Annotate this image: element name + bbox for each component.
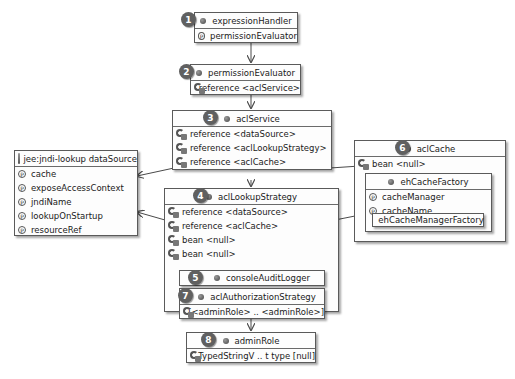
row-label: cacheManager	[382, 192, 444, 202]
property-row[interactable]: PpermissionEvaluator	[195, 29, 297, 43]
node-header: ehCacheManagerFactory	[373, 214, 483, 226]
bean-icon	[214, 275, 220, 281]
node-title: ehCacheFactory	[400, 177, 468, 187]
node-title: ehCacheManagerFactory	[378, 215, 483, 225]
row-label: [<adminRole> .. <adminRole>]	[188, 307, 324, 317]
node-header: ehCacheFactory	[366, 174, 491, 190]
node-title: jee:jndi-lookup dataSource	[23, 154, 137, 164]
property-icon: P	[198, 32, 205, 40]
list-row[interactable]: [<adminRole> .. <adminRole>]	[180, 305, 324, 319]
badge-3: 3	[203, 110, 218, 125]
property-icon: P	[18, 184, 26, 192]
bean-icon	[196, 70, 202, 76]
row-label: lookupOnStartup	[31, 211, 103, 221]
node-title: aclAuthorizationStrategy	[210, 292, 316, 302]
node-header: jee:jndi-lookup dataSource	[15, 151, 137, 167]
bean-row[interactable]: bean <null>	[165, 233, 338, 247]
property-row[interactable]: PjndiName	[15, 195, 137, 209]
reference-icon	[176, 157, 187, 168]
row-label: bean <null>	[182, 249, 236, 259]
badge-2: 2	[179, 64, 194, 79]
node-title: consoleAuditLogger	[226, 273, 310, 283]
property-row[interactable]: Pcache	[15, 167, 137, 181]
reference-row[interactable]: reference <dataSource>	[173, 127, 331, 141]
row-label: reference <aclService>	[199, 83, 300, 93]
property-icon: P	[369, 193, 377, 201]
property-row[interactable]: PexposeAccessContext	[15, 181, 137, 195]
node-title: permissionEvaluator	[208, 68, 295, 78]
reference-row[interactable]: reference <aclCache>	[165, 219, 338, 233]
node-header: aclLookupStrategy	[165, 189, 338, 205]
row-label: cache	[31, 169, 56, 179]
reference-icon	[168, 221, 179, 232]
reference-icon	[176, 129, 187, 140]
jndi-lookup-icon	[18, 153, 20, 164]
node-aclService[interactable]: 3 aclService reference <dataSource> refe…	[172, 110, 332, 170]
badge-4: 4	[193, 188, 208, 203]
row-label: reference <dataSource>	[190, 129, 296, 139]
row-label: permissionEvaluator	[210, 31, 297, 41]
bean-icon	[198, 294, 204, 300]
property-row[interactable]: PcacheManager	[366, 190, 491, 204]
row-label: exposeAccessContext	[31, 183, 124, 193]
node-title: adminRole	[235, 336, 280, 346]
badge-6: 6	[395, 140, 410, 155]
node-header: aclService	[173, 111, 331, 127]
node-header: permissionEvaluator	[191, 65, 300, 81]
badge-1: 1	[181, 12, 196, 27]
node-permissionEvaluator[interactable]: 2 permissionEvaluator reference <aclServ…	[190, 64, 301, 95]
node-header: aclAuthorizationStrategy	[180, 289, 324, 305]
node-aclCache[interactable]: 6 aclCache bean <null> ehCacheFactory Pc…	[354, 140, 506, 242]
reference-row[interactable]: reference <aclLookupStrategy>	[173, 141, 331, 155]
node-adminRole[interactable]: 8 adminRole TypedStringV .. t type [null…	[186, 332, 316, 363]
property-icon: P	[18, 226, 26, 234]
reference-icon	[168, 249, 179, 260]
reference-icon	[194, 83, 196, 94]
node-title: aclLookupStrategy	[218, 192, 297, 202]
reference-row[interactable]: reference <aclService>	[191, 81, 300, 95]
row-label: bean <null>	[372, 159, 426, 169]
row-label: TypedStringV .. t type [null]	[198, 351, 315, 361]
node-title: expressionHandler	[212, 16, 291, 26]
row-label: resourceRef	[31, 225, 82, 235]
bean-icon	[224, 116, 230, 122]
reference-icon	[168, 235, 179, 246]
reference-icon	[183, 307, 185, 318]
node-consoleAuditLogger[interactable]: 5 consoleAuditLogger	[179, 270, 325, 286]
node-aclLookupStrategy[interactable]: 4 aclLookupStrategy reference <dataSourc…	[164, 188, 339, 312]
row-label: bean <null>	[182, 235, 236, 245]
row-label: reference <aclCache>	[190, 157, 286, 167]
reference-icon	[176, 143, 187, 154]
property-icon: P	[18, 212, 26, 220]
badge-5: 5	[188, 270, 203, 285]
bean-row[interactable]: bean <null>	[355, 157, 505, 171]
property-row[interactable]: PlookupOnStartup	[15, 209, 137, 223]
node-dataSource[interactable]: jee:jndi-lookup dataSource Pcache Pexpos…	[14, 150, 138, 236]
property-icon: P	[18, 198, 26, 206]
node-ehCacheFactory[interactable]: ehCacheFactory PcacheManager PcacheName …	[365, 173, 492, 232]
property-row[interactable]: PresourceRef	[15, 223, 137, 237]
node-expressionHandler[interactable]: 1 expressionHandler PpermissionEvaluator	[194, 12, 298, 43]
badge-7: 7	[178, 288, 193, 303]
property-icon: P	[18, 170, 26, 178]
reference-row[interactable]: reference <dataSource>	[165, 205, 338, 219]
reference-row[interactable]: reference <aclCache>	[173, 155, 331, 169]
row-label: reference <dataSource>	[182, 207, 288, 217]
node-header: aclCache	[355, 141, 505, 157]
bean-row[interactable]: bean <null>	[165, 247, 338, 261]
bean-icon	[388, 179, 394, 185]
node-aclAuthorizationStrategy[interactable]: 7 aclAuthorizationStrategy [<adminRole> …	[179, 288, 325, 319]
row-label: reference <aclLookupStrategy>	[190, 143, 327, 153]
node-title: aclCache	[417, 144, 456, 154]
node-title: aclService	[236, 114, 280, 124]
node-ehCacheManagerFactory[interactable]: ehCacheManagerFactory	[372, 213, 484, 227]
node-header: expressionHandler	[195, 13, 297, 29]
reference-icon	[358, 159, 369, 170]
bean-icon	[223, 338, 229, 344]
reference-icon	[168, 207, 179, 218]
reference-icon	[190, 351, 195, 362]
badge-8: 8	[201, 332, 216, 347]
row-label: jndiName	[31, 197, 72, 207]
value-row[interactable]: TypedStringV .. t type [null]	[187, 349, 315, 363]
row-label: reference <aclCache>	[182, 221, 278, 231]
